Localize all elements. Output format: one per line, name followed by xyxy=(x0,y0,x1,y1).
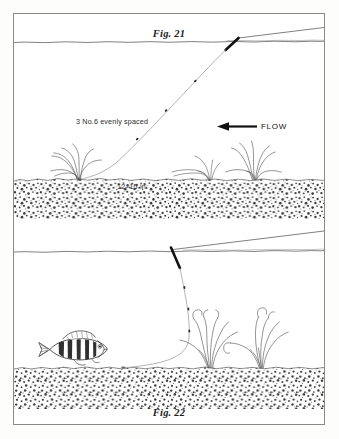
figure-panel-fig21: Fig. 21 3 No.6 evenly spaced 12–15 in FL… xyxy=(14,14,324,219)
gravel-bed-fig22 xyxy=(14,363,324,409)
split-shot-group-fig21 xyxy=(135,79,197,140)
weed-clump-right-fig22 xyxy=(224,308,289,368)
weed-clump-left-fig21 xyxy=(51,144,102,180)
line-entry-marker-fig21 xyxy=(226,38,239,50)
water-surface-fig21 xyxy=(14,40,324,43)
gravel-bed-fig21 xyxy=(14,174,324,219)
water-surface-fig22 xyxy=(14,249,324,252)
figure-panel-fig22: No.4's evenly spaced BB FLOW Fig. 22 xyxy=(14,221,324,426)
fig21-depth-label: 12–15 in xyxy=(117,182,146,191)
fig21-caption: Fig. 21 xyxy=(14,28,324,39)
fig21-scene xyxy=(14,14,324,219)
weed-clump-right-fig21 xyxy=(226,141,282,180)
bb-shot-marker-fig22 xyxy=(171,248,180,269)
plate-frame: Fig. 21 3 No.6 evenly spaced 12–15 in FL… xyxy=(13,13,325,425)
fish-illustration-fig22 xyxy=(39,331,108,365)
fig22-caption: Fig. 22 xyxy=(14,407,324,418)
weed-clump-middle-fig21 xyxy=(172,156,220,180)
fig21-flow-arrow-icon xyxy=(217,121,257,132)
fig21-flow-label: FLOW xyxy=(261,122,287,131)
fig22-scene xyxy=(14,221,324,426)
fig21-shot-label: 3 No.6 evenly spaced xyxy=(76,117,148,126)
submerged-line-fig21 xyxy=(78,50,226,181)
submerged-line-fig22 xyxy=(121,268,190,369)
illustration-plate: Fig. 21 3 No.6 evenly spaced 12–15 in FL… xyxy=(0,0,339,439)
fishing-line-above-water-fig22 xyxy=(173,231,324,250)
